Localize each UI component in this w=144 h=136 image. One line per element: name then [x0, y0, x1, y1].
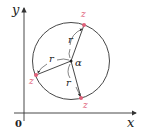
origin-label: 0 — [15, 118, 22, 129]
point-top — [82, 23, 86, 27]
arc-arrow-top-lower — [69, 49, 70, 58]
center-label: α — [75, 57, 82, 68]
radius-top — [71, 25, 84, 61]
diagram-canvas: y x 0 α r r r z z z — [0, 0, 144, 136]
diagram-svg: y x 0 α r r r z z z — [0, 0, 144, 136]
radius-label-bottom: r — [66, 77, 72, 88]
y-axis-label: y — [11, 2, 20, 17]
point-label-top: z — [80, 9, 86, 19]
arc-arrow-bottom — [68, 64, 70, 78]
arc-arrow-left-lower — [38, 64, 47, 73]
point-label-bottom: z — [82, 100, 88, 110]
radius-label-left: r — [49, 53, 55, 64]
point-left — [34, 73, 38, 77]
center-point — [70, 60, 73, 63]
arc-arrow-left — [57, 59, 69, 60]
x-axis-label: x — [127, 115, 135, 130]
point-label-left: z — [28, 76, 34, 86]
